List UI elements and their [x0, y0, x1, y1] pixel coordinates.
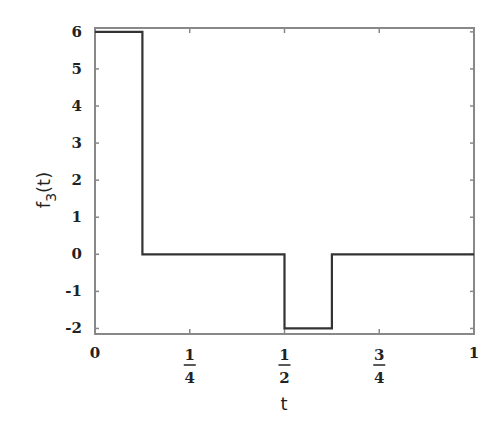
x-tick-label: 1 [469, 344, 479, 362]
x-tick-denominator: 4 [185, 369, 195, 387]
y-tick-label: -2 [65, 319, 82, 337]
svg-text:f3(t): f3(t) [33, 172, 59, 208]
y-axis-label: f3(t) [33, 172, 59, 208]
step-function-line [95, 32, 474, 329]
y-tick-label: 3 [72, 134, 82, 152]
y-axis-label-subscript: 3 [43, 193, 59, 202]
y-tick-label: 4 [72, 97, 82, 115]
x-tick-label: 0 [90, 344, 100, 362]
x-tick-numerator: 3 [374, 346, 384, 364]
y-tick-label: 2 [72, 171, 82, 189]
y-tick-label: 0 [72, 245, 82, 263]
y-tick-label: 5 [72, 60, 82, 78]
series-line [95, 32, 474, 329]
x-tick-numerator: 1 [279, 346, 289, 364]
y-tick-label: 1 [72, 208, 82, 226]
x-tick-numerator: 1 [185, 346, 195, 364]
y-tick-label: 6 [72, 23, 82, 41]
y-axis-label-arg: (t) [33, 172, 54, 193]
x-axis-label: t [280, 393, 287, 414]
y-tick-label: -1 [65, 282, 82, 300]
y-axis-ticks: 6543210-1-2 [65, 23, 474, 338]
x-tick-denominator: 4 [374, 369, 384, 387]
chart-svg: 6543210-1-2 01412341 t f3(t) [0, 0, 494, 425]
x-tick-denominator: 2 [279, 369, 289, 387]
